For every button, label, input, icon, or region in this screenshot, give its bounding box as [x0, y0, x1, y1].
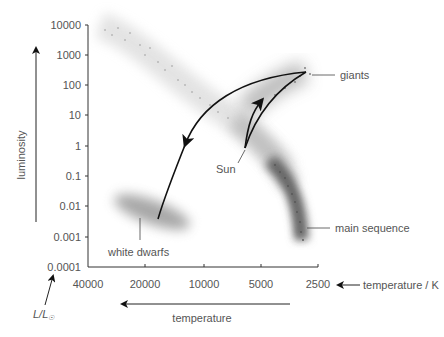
y-tick-label: 1000	[57, 49, 81, 61]
y-axis-label: luminosity	[15, 130, 27, 179]
sun-label: Sun	[216, 163, 236, 175]
y-tick-label: 0.01	[60, 200, 81, 212]
y-tick-label: 10000	[50, 19, 81, 31]
unit-pointer-arrow-icon	[45, 276, 53, 305]
y-tick-label: 100	[63, 79, 81, 91]
main-sequence-label: main sequence	[335, 222, 410, 234]
y-tick-label: 1	[75, 140, 81, 152]
hr-diagram: 10000 1000 100 10 1 0.1 0.01 0.001 0.000…	[0, 0, 444, 337]
giants-label: giants	[340, 69, 370, 81]
x-tick-label: 2500	[306, 278, 330, 290]
y-tick-label: 10	[69, 109, 81, 121]
y-tick-label: 0.1	[66, 170, 81, 182]
giant-to-dwarf-path	[158, 140, 187, 219]
x-axis-direction-label: temperature	[172, 312, 231, 324]
white-dwarfs-region	[110, 187, 193, 237]
x-axis-unit-label: temperature / K	[363, 279, 439, 291]
x-tick-label: 40000	[73, 278, 104, 290]
y-unit-label: L/L☉	[33, 308, 55, 321]
x-tick-label: 20000	[130, 278, 161, 290]
y-tick-label: 0.0001	[47, 261, 81, 273]
x-tick-label: 10000	[189, 278, 220, 290]
white-dwarfs-label: white dwarfs	[107, 246, 170, 258]
y-tick-label: 0.001	[53, 231, 81, 243]
x-tick-label: 5000	[249, 278, 273, 290]
giants-region	[245, 67, 311, 110]
